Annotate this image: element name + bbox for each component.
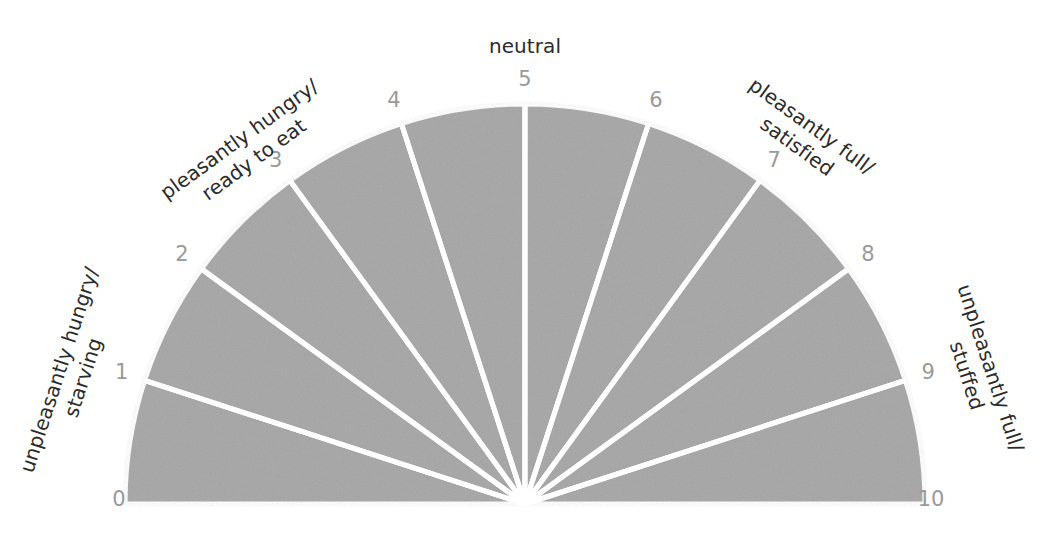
- tick-number-4: 4: [387, 88, 400, 112]
- semicircle-gauge-svg: 012345678910 neutral unpleasantly hungry…: [0, 0, 1059, 543]
- zone-label-unpleasantly-full: unpleasantly full/ stuffed: [929, 281, 1030, 462]
- tick-number-1: 1: [115, 360, 128, 384]
- tick-number-6: 6: [649, 88, 662, 112]
- zone-label-neutral-text: neutral: [489, 34, 561, 58]
- tick-number-2: 2: [175, 242, 188, 266]
- tick-number-10: 10: [918, 487, 945, 511]
- zone-label-unpleasantly-hungry: unpleasantly hungry/ starving: [15, 264, 128, 483]
- tick-number-9: 9: [922, 360, 935, 384]
- tick-number-0: 0: [112, 487, 125, 511]
- tick-number-5: 5: [518, 67, 531, 91]
- hunger-scale-figure: 012345678910 neutral unpleasantly hungry…: [0, 0, 1059, 543]
- tick-number-8: 8: [861, 242, 874, 266]
- tick-number-7: 7: [768, 148, 781, 172]
- zone-label-neutral: neutral: [489, 34, 561, 58]
